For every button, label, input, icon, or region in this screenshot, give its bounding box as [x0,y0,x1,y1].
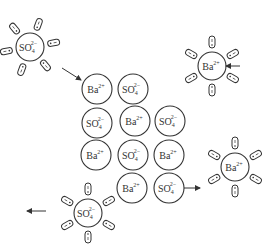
barium-ion: Ba2+ [82,74,112,104]
water-molecule-icon [209,84,215,96]
water-molecule-icon [232,137,238,149]
hydrated-sulfate-ion: SO42− [61,183,116,243]
water-molecule-icon [85,183,91,195]
water-molecule-icon [61,195,74,206]
water-molecule-icon [61,219,74,230]
ion-lattice: Ba2+SO42−SO42−Ba2+SO42−Ba2+SO42−Ba2+Ba2+… [81,74,185,203]
ion-core: Ba2+ [221,153,249,181]
sulfate-ion: SO42− [118,74,148,104]
barium-ion: Ba2+ [120,106,150,136]
water-molecule-icon [226,72,239,83]
barium-ion: Ba2+ [81,140,111,170]
water-molecule-icon [226,48,239,59]
water-molecule-icon [249,149,262,160]
water-molecule-icon [232,185,238,197]
sulfate-ion: SO42− [118,140,148,170]
ion-core: SO42− [74,199,102,227]
hydrated-barium-ion: Ba2+ [208,137,263,197]
water-molecule-icon [85,231,91,243]
water-molecule-icon [185,48,198,59]
barium-ion: Ba2+ [117,173,147,203]
sulfate-ion: SO42− [154,173,184,203]
sulfate-ion: SO42− [82,108,112,138]
water-molecule-icon [47,39,60,47]
barium-sulfate-dissolution-diagram: Ba2+SO42−SO42−Ba2+SO42−Ba2+SO42−Ba2+Ba2+… [0,0,277,252]
water-molecule-icon [208,149,221,160]
water-molecule-icon [185,72,198,83]
barium-ion: Ba2+ [154,140,184,170]
water-molecule-icon [102,219,115,230]
water-molecule-icon [0,47,13,55]
water-molecule-icon [209,36,215,48]
water-molecule-icon [8,22,20,35]
water-molecule-icon [17,63,27,76]
ion-core: Ba2+ [198,52,226,80]
sulfate-ion: SO42− [155,106,185,136]
water-molecule-icon [102,195,115,206]
water-molecule-icon [208,173,221,184]
water-molecule-icon [39,59,51,72]
hydrated-sulfate-ion: SO42− [0,18,60,76]
water-molecule-icon [33,18,43,31]
ion-core: SO42− [16,33,44,61]
arrow-sulfate-to-lattice-icon [62,68,81,80]
water-molecule-icon [249,173,262,184]
